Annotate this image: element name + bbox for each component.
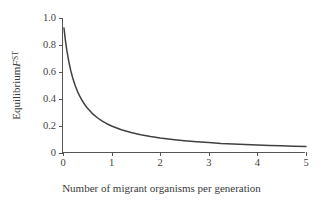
equilibrium-fst-curve bbox=[64, 28, 306, 147]
y-tick-label-4: 0.8 bbox=[43, 40, 56, 51]
y-axis-title-variable: F bbox=[11, 60, 22, 67]
y-tick-label-2: 0.4 bbox=[43, 94, 56, 105]
x-tick-2 bbox=[160, 152, 161, 156]
x-tick-label-4: 4 bbox=[255, 158, 260, 169]
x-tick-label-0: 0 bbox=[60, 158, 65, 169]
y-tick-label-5: 1.0 bbox=[43, 13, 56, 24]
y-tick-1 bbox=[59, 126, 63, 127]
x-tick-5 bbox=[306, 152, 307, 156]
curve-svg bbox=[63, 18, 306, 153]
x-tick-1 bbox=[112, 152, 113, 156]
y-tick-label-1: 0.2 bbox=[43, 121, 56, 132]
y-tick-label-0: 0 bbox=[51, 148, 56, 159]
chart-figure: 00.20.40.60.81.0 012345 Equilibrium FST … bbox=[0, 0, 323, 204]
plot-area: 00.20.40.60.81.0 012345 bbox=[62, 18, 305, 153]
y-axis-title: Equilibrium FST bbox=[8, 18, 24, 153]
x-tick-label-1: 1 bbox=[109, 158, 114, 169]
x-tick-label-3: 3 bbox=[206, 158, 211, 169]
y-axis-title-subscript: ST bbox=[12, 51, 20, 60]
y-tick-3 bbox=[59, 72, 63, 73]
x-tick-0 bbox=[63, 152, 64, 156]
y-tick-4 bbox=[59, 45, 63, 46]
x-axis-title: Number of migrant organisms per generati… bbox=[0, 183, 323, 194]
y-tick-label-3: 0.6 bbox=[43, 67, 56, 78]
x-tick-label-2: 2 bbox=[158, 158, 163, 169]
x-tick-label-5: 5 bbox=[303, 158, 308, 169]
x-tick-4 bbox=[257, 152, 258, 156]
y-axis-title-prefix: Equilibrium bbox=[11, 67, 22, 120]
y-tick-5 bbox=[59, 18, 63, 19]
y-tick-2 bbox=[59, 99, 63, 100]
x-tick-3 bbox=[209, 152, 210, 156]
